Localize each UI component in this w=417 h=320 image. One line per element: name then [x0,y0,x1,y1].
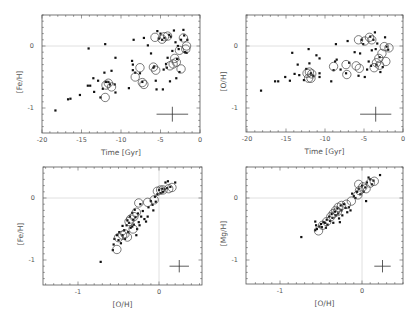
data-point-dot [110,70,112,72]
data-point-dot [169,80,171,82]
data-point-dot [132,69,134,71]
data-point-dot [351,193,353,195]
data-point-dot [345,72,347,74]
data-point-dot [298,74,300,76]
x-tick-label: -1 [277,287,283,295]
data-point-dot [371,49,373,51]
data-point-dot [330,80,332,82]
panel-bottom-left: -10-10[O/H][Fe/H] [16,167,202,309]
data-point-dot [374,31,376,33]
data-point-dot [277,80,279,82]
data-point-dot [167,180,169,182]
data-point-dot [140,216,142,218]
data-point-dot [155,80,157,82]
plot-frame [42,15,200,133]
data-point-dot [375,48,377,50]
data-point-open-circle [168,183,176,191]
data-point-dot [162,88,164,90]
x-tick-label: 0 [198,136,202,144]
data-point-dot [121,225,123,227]
x-tick-label: -5 [361,135,367,143]
data-point-open-circle [343,70,351,78]
data-point-dot [138,224,140,226]
x-axis-label: Time [Gyr] [100,148,141,157]
data-point-dot [133,39,135,41]
data-point-dot [336,59,338,61]
data-point-dot [308,62,310,64]
data-point-dot [357,75,359,77]
data-point-dot [338,217,340,219]
data-point-dot [167,57,169,59]
y-tick-label: 0 [234,42,238,50]
x-tick-label: -15 [76,136,87,144]
data-point-dot [308,48,310,50]
data-point-dot [97,80,99,82]
panel-bottom-right: -10-10[O/H][Mg/H] [219,167,403,308]
data-point-open-circle [125,217,133,225]
data-point-dot [155,88,157,90]
error-bar-cross [374,260,390,272]
data-point-dot [293,73,295,75]
data-point-dot [88,47,90,49]
data-point-dot [128,87,130,89]
y-axis-label: [O/H] [219,71,228,91]
data-point-dot [386,46,388,48]
y-tick-label: 0 [31,194,35,202]
data-point-dot [89,85,91,87]
data-point-dot [175,77,177,79]
data-point-dot [340,68,342,70]
data-point-dot [183,34,185,36]
y-axis-label: [Fe/H] [16,223,25,246]
panel-top-right: -20-15-10-50-10Time [Gyr][O/H] [219,15,405,156]
panel-top-left: -20-15-10-50-10Time [Gyr][Fe/H] [15,15,202,157]
x-tick-label: -20 [242,135,253,143]
data-point-open-circle [104,79,112,87]
data-point-dot [274,80,276,82]
y-tick-label: 0 [30,42,34,50]
data-point-open-circle [370,63,378,71]
data-point-dot [297,64,299,66]
y-tick-label: -1 [28,104,34,112]
data-point-dot [379,71,381,73]
series-dots [300,174,381,238]
data-point-dot [318,76,320,78]
data-point-dot [332,222,334,224]
data-point-dot [147,216,149,218]
data-point-dot [79,94,81,96]
data-point-open-circle [177,65,185,73]
data-point-dot [67,98,69,100]
x-tick-label: 0 [401,135,405,143]
data-point-dot [152,209,154,211]
data-point-open-circle [101,93,109,101]
data-point-dot [114,91,116,93]
data-point-open-circle [113,245,121,253]
data-point-dot [174,181,176,183]
y-tick-label: -1 [232,104,238,112]
data-point-dot [365,200,367,202]
error-bar-cross [360,107,391,122]
data-point-dot [131,225,133,227]
data-point-open-circle [166,62,174,70]
data-point-open-circle [169,60,177,68]
data-point-dot [156,30,158,32]
data-point-dot [341,214,343,216]
data-point-dot [315,224,317,226]
data-point-dot [366,68,368,70]
data-point-dot [139,72,141,74]
data-point-dot [147,44,149,46]
series-circles [101,32,191,102]
data-point-dot [104,43,106,45]
data-point-dot [54,109,56,111]
data-point-dot [318,57,320,59]
x-tick-label: -20 [37,136,48,144]
series-dots [260,31,389,91]
data-point-dot [320,223,322,225]
data-point-dot [143,37,145,39]
data-point-dot [284,76,286,78]
x-axis-label: [O/H] [315,299,335,308]
data-point-dot [335,43,337,45]
x-axis-label: Time [Gyr] [304,147,345,156]
data-point-dot [171,50,173,52]
data-point-dot [339,221,341,223]
data-point-dot [150,52,152,54]
